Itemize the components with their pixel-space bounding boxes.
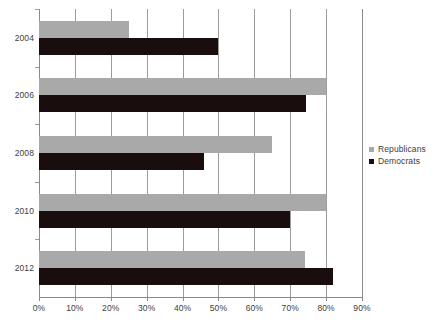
bar-democrats-2006 (39, 95, 306, 112)
legend-item-democrats: Democrats (369, 155, 426, 167)
gridline-80 (326, 9, 327, 297)
x-tick-label-90: 90% (353, 303, 370, 313)
bar-republicans-2008 (39, 136, 272, 153)
x-tick-label-20: 20% (102, 303, 119, 313)
bar-democrats-2010 (39, 211, 290, 228)
category-label-2012: 2012 (0, 263, 34, 273)
x-tick-mark-60 (254, 297, 255, 301)
legend-label-republicans: Republicans (378, 144, 426, 154)
x-tick-label-0: 0% (33, 303, 46, 313)
x-tick-mark-90 (362, 297, 363, 301)
category-label-2004: 2004 (0, 33, 34, 43)
x-tick-label-10: 10% (66, 303, 83, 313)
x-tick-label-30: 30% (138, 303, 155, 313)
legend-swatch-icon-republicans (369, 147, 374, 152)
x-tick-label-40: 40% (174, 303, 191, 313)
category-tick-2004 (35, 9, 39, 10)
legend-item-republicans: Republicans (369, 143, 426, 155)
bar-republicans-2010 (39, 194, 326, 211)
bar-democrats-2008 (39, 153, 204, 170)
category-label-2008: 2008 (0, 148, 34, 158)
x-tick-label-70: 70% (282, 303, 299, 313)
category-label-2010: 2010 (0, 206, 34, 216)
x-tick-mark-50 (218, 297, 219, 301)
x-tick-mark-70 (290, 297, 291, 301)
legend-swatch-icon-democrats (369, 159, 374, 164)
category-tick-2012 (35, 239, 39, 240)
gridline-90 (362, 9, 363, 297)
bar-republicans-2012 (39, 251, 305, 268)
bar-republicans-2004 (39, 21, 129, 38)
category-tick-2006 (35, 67, 39, 68)
x-tick-mark-0 (39, 297, 40, 301)
category-tick-2008 (35, 124, 39, 125)
legend: Republicans Democrats (369, 143, 426, 167)
bar-republicans-2006 (39, 78, 326, 95)
bar-chart: 0%10%20%30%40%50%60%70%80%90% 2004200620… (0, 0, 439, 325)
legend-label-democrats: Democrats (378, 156, 420, 166)
x-tick-mark-20 (111, 297, 112, 301)
bar-democrats-2004 (39, 38, 218, 55)
x-tick-label-80: 80% (317, 303, 334, 313)
category-label-2006: 2006 (0, 90, 34, 100)
x-tick-label-50: 50% (210, 303, 227, 313)
x-tick-mark-80 (326, 297, 327, 301)
x-tick-mark-10 (75, 297, 76, 301)
x-tick-mark-30 (147, 297, 148, 301)
x-tick-mark-40 (183, 297, 184, 301)
x-axis-line (39, 297, 362, 298)
x-tick-label-60: 60% (246, 303, 263, 313)
category-tick-2010 (35, 182, 39, 183)
bar-democrats-2012 (39, 268, 333, 285)
